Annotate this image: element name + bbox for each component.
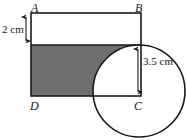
shaded-region — [31, 45, 141, 96]
figure-drawing — [0, 0, 186, 140]
dimension-label-3point5cm: 3.5 cm — [143, 56, 173, 67]
vertex-label-b: B — [135, 2, 142, 14]
vertex-label-c: C — [134, 100, 142, 112]
geometry-figure: A B C D 2 cm 3.5 cm — [0, 0, 186, 140]
dimension-label-2cm: 2 cm — [2, 24, 24, 35]
shaded-region-fill — [31, 45, 141, 96]
vertex-label-d: D — [30, 100, 39, 112]
vertex-label-a: A — [31, 2, 38, 14]
